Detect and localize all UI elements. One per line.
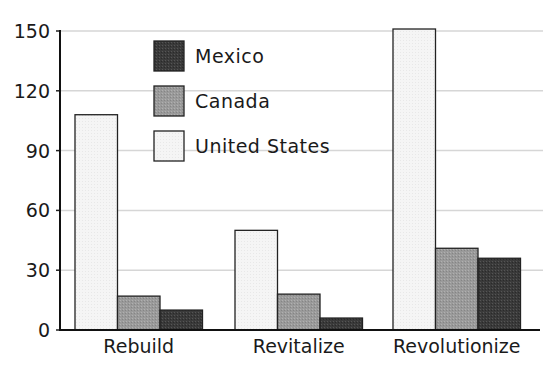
bar-revolutionize-canada	[436, 248, 479, 330]
legend: MexicoCanadaUnited States	[154, 41, 330, 161]
legend-swatch-mexico	[154, 41, 184, 71]
y-tick-label: 60	[26, 199, 50, 221]
x-tick-label: Revitalize	[253, 335, 345, 357]
bar-chart: 0306090120150RebuildRevitalizeRevolution…	[0, 0, 557, 381]
legend-swatch-united-states	[154, 131, 184, 161]
y-tick-label: 30	[26, 259, 50, 281]
y-tick-label: 90	[26, 140, 50, 162]
y-tick-label: 120	[14, 80, 50, 102]
legend-label: United States	[195, 135, 330, 157]
bar-revolutionize-mexico	[478, 258, 521, 330]
x-tick-label: Revolutionize	[393, 335, 521, 357]
bar-revitalize-united-states	[235, 230, 278, 330]
y-tick-label: 150	[14, 20, 50, 42]
bar-rebuild-canada	[118, 296, 161, 330]
legend-label: Mexico	[195, 45, 264, 67]
bar-rebuild-mexico	[160, 310, 203, 330]
bar-revitalize-canada	[278, 294, 321, 330]
bar-revolutionize-united-states	[393, 29, 436, 330]
x-tick-label: Rebuild	[103, 335, 174, 357]
legend-swatch-canada	[154, 86, 184, 116]
y-tick-label: 0	[38, 319, 50, 341]
bars	[75, 29, 521, 330]
bar-rebuild-united-states	[75, 115, 118, 330]
bar-revitalize-mexico	[320, 318, 363, 330]
legend-label: Canada	[195, 90, 270, 112]
